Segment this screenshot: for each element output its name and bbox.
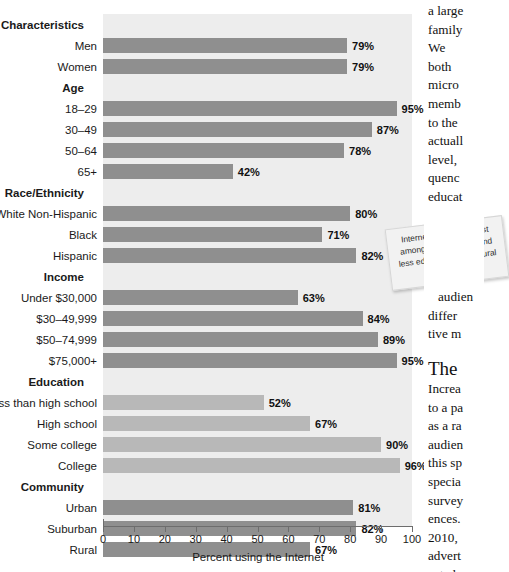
x-tick-label: 70 bbox=[313, 533, 325, 545]
category-label: Some college bbox=[0, 434, 97, 455]
group-heading-label: Characteristics bbox=[0, 14, 97, 35]
group-heading-label: Race/Ethnicity bbox=[0, 182, 97, 203]
bar bbox=[103, 290, 298, 305]
category-label: High school bbox=[0, 413, 97, 434]
category-label: College bbox=[0, 455, 97, 476]
bar-value-label: 52% bbox=[269, 395, 291, 410]
x-tick-label: 40 bbox=[220, 533, 232, 545]
category-label: 18–29 bbox=[0, 98, 97, 119]
bar-row: 30–4987% bbox=[0, 119, 424, 140]
book-text-line: quenc bbox=[428, 169, 484, 188]
x-tick-label: 0 bbox=[100, 533, 106, 545]
book-text-line: 2010, bbox=[428, 529, 484, 548]
bar bbox=[103, 416, 310, 431]
bar bbox=[103, 248, 356, 263]
bar-value-label: 95% bbox=[402, 353, 424, 368]
bar-row: Suburban82% bbox=[0, 518, 424, 539]
category-label: 65+ bbox=[0, 161, 97, 182]
group-heading-row: Income bbox=[0, 266, 424, 287]
bar bbox=[103, 353, 397, 368]
bar-value-label: 90% bbox=[386, 437, 408, 452]
book-text-top: a largefamilyWebothmicromembto theactual… bbox=[428, 2, 484, 207]
bar bbox=[103, 437, 381, 452]
bar-value-label: 82% bbox=[361, 248, 383, 263]
bar-value-label: 63% bbox=[303, 290, 325, 305]
x-axis-title: Percent using the Internet bbox=[103, 551, 413, 563]
category-label: White Non-Hispanic bbox=[0, 203, 97, 224]
bar bbox=[103, 332, 378, 347]
book-text-line: Increa bbox=[428, 380, 484, 399]
category-label: Less than high school bbox=[0, 392, 97, 413]
x-tick bbox=[103, 527, 104, 532]
book-text-line: both bbox=[428, 58, 484, 77]
book-text-line: family bbox=[428, 21, 484, 40]
book-text-line: as a ra bbox=[428, 417, 484, 436]
bar bbox=[103, 458, 400, 473]
bar-value-label: 71% bbox=[327, 227, 349, 242]
x-tick bbox=[350, 527, 351, 532]
book-text-line: this sp bbox=[428, 454, 484, 473]
category-label: 30–49 bbox=[0, 119, 97, 140]
book-text-line: educat bbox=[428, 188, 484, 207]
bar-row: $75,000+95% bbox=[0, 350, 424, 371]
bar-value-label: 67% bbox=[315, 416, 337, 431]
category-label: Men bbox=[0, 35, 97, 56]
bar-row: 65+42% bbox=[0, 161, 424, 182]
book-text-line: micro bbox=[428, 76, 484, 95]
bar bbox=[103, 206, 350, 221]
x-tick-label: 20 bbox=[159, 533, 171, 545]
internet-usage-bar-chart: CharacteristicsMen79%Women79%Age18–2995%… bbox=[0, 0, 424, 572]
x-tick bbox=[196, 527, 197, 532]
book-text-line: survey bbox=[428, 492, 484, 511]
bar bbox=[103, 311, 363, 326]
book-text-bottom: Increato a paas a raaudienthis spspecias… bbox=[428, 380, 484, 572]
bar-value-label: 79% bbox=[352, 59, 374, 74]
bar-row: Women79% bbox=[0, 56, 424, 77]
x-tick-label: 100 bbox=[403, 533, 421, 545]
book-text-line: actuall bbox=[428, 132, 484, 151]
x-tick-label: 60 bbox=[282, 533, 294, 545]
bar bbox=[103, 500, 353, 515]
group-heading-row: Characteristics bbox=[0, 14, 424, 35]
group-heading-row: Age bbox=[0, 77, 424, 98]
bar-row: High school67% bbox=[0, 413, 424, 434]
category-label: $75,000+ bbox=[0, 350, 97, 371]
bar-row: $50–74,99989% bbox=[0, 329, 424, 350]
category-label: Under $30,000 bbox=[0, 287, 97, 308]
bar-value-label: 80% bbox=[355, 206, 377, 221]
x-tick bbox=[381, 527, 382, 532]
bar-row: Urban81% bbox=[0, 497, 424, 518]
category-label: Black bbox=[0, 224, 97, 245]
bar-value-label: 81% bbox=[358, 500, 380, 515]
x-tick-label: 30 bbox=[190, 533, 202, 545]
book-text-line: cated bbox=[428, 566, 484, 572]
book-text-line: We bbox=[428, 39, 484, 58]
bar-row: Under $30,00063% bbox=[0, 287, 424, 308]
bar-row: Men79% bbox=[0, 35, 424, 56]
bar-row: 18–2995% bbox=[0, 98, 424, 119]
y-axis-origin-tick bbox=[103, 519, 104, 527]
x-tick bbox=[165, 527, 166, 532]
group-heading-row: Community bbox=[0, 476, 424, 497]
bar bbox=[103, 143, 344, 158]
bar-row: College96% bbox=[0, 455, 424, 476]
group-heading-label: Income bbox=[0, 266, 97, 287]
book-text-line: a large bbox=[428, 2, 484, 21]
bar bbox=[103, 38, 347, 53]
group-heading-label: Community bbox=[0, 476, 97, 497]
bar bbox=[103, 227, 322, 242]
book-text-line: to a pa bbox=[428, 399, 484, 418]
x-tick bbox=[227, 527, 228, 532]
book-text-line: audien bbox=[428, 288, 484, 307]
bar-value-label: 87% bbox=[377, 122, 399, 137]
x-tick bbox=[134, 527, 135, 532]
bar bbox=[103, 122, 372, 137]
bar-value-label: 42% bbox=[238, 164, 260, 179]
category-label: Hispanic bbox=[0, 245, 97, 266]
book-text-line: to the bbox=[428, 114, 484, 133]
x-tick-label: 90 bbox=[375, 533, 387, 545]
bar-row: Less than high school52% bbox=[0, 392, 424, 413]
category-label: Urban bbox=[0, 497, 97, 518]
bar-value-label: 79% bbox=[352, 38, 374, 53]
bar-value-label: 78% bbox=[349, 143, 371, 158]
